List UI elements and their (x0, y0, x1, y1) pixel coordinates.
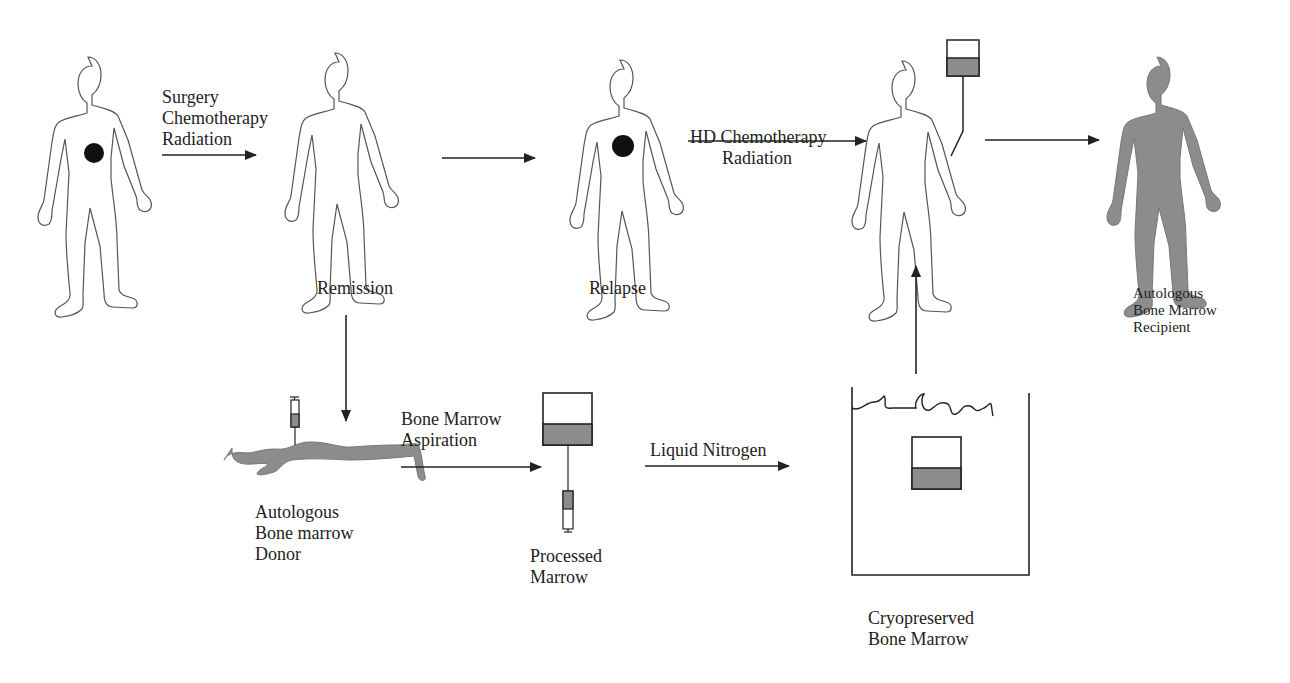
remission-patient-figure (285, 53, 398, 313)
tumor-icon (84, 143, 104, 163)
cryopreserved-label: Cryopreserved Bone Marrow (868, 608, 974, 650)
label-line: Bone Marrow (1133, 302, 1217, 319)
processed-marrow-label: Processed Marrow (530, 546, 602, 588)
syringe-icon (290, 397, 299, 445)
relapse-label: Relapse (589, 278, 646, 299)
label-line: Cryopreserved (868, 608, 974, 629)
label-line: Bone Marrow (401, 409, 501, 430)
remission-label: Remission (317, 278, 393, 299)
hd-treatment-label: HD Chemotherapy Radiation (690, 127, 826, 169)
label-line: Radiation (162, 129, 268, 150)
aspiration-label: Bone Marrow Aspiration (401, 409, 501, 451)
label-line: Bone marrow (255, 523, 353, 544)
label-line: Recipient (1133, 319, 1217, 336)
label-line: Autologous (255, 502, 353, 523)
recipient-figure (1107, 57, 1220, 317)
label-line: Aspiration (401, 430, 501, 451)
liquid-nitrogen-label: Liquid Nitrogen (650, 440, 766, 461)
label-line: Donor (255, 544, 353, 565)
label-line: Autologous (1133, 285, 1217, 302)
cryo-tank-icon (852, 387, 1029, 575)
tumor-icon (612, 135, 634, 157)
processed-marrow-bag-icon (543, 393, 592, 532)
recipient-label: Autologous Bone Marrow Recipient (1133, 285, 1217, 336)
label-line: Marrow (530, 567, 602, 588)
patient-with-tumor-figure (38, 57, 151, 317)
label-line: Chemotherapy (162, 108, 268, 129)
donor-label: Autologous Bone marrow Donor (255, 502, 353, 565)
label-line: HD Chemotherapy (690, 127, 826, 148)
label-line: Surgery (162, 87, 268, 108)
treatment-arrow-label: Surgery Chemotherapy Radiation (162, 87, 268, 150)
donor-figure (224, 397, 425, 481)
label-line: Radiation (690, 148, 826, 169)
label-line: Processed (530, 546, 602, 567)
infusion-bag-icon (947, 40, 979, 156)
label-line: Bone Marrow (868, 629, 974, 650)
